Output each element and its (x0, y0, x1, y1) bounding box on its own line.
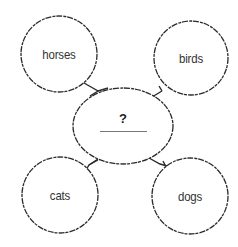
node-horses-label: horses (42, 47, 75, 62)
center-prompt: ? (119, 111, 127, 126)
center-ellipse (73, 88, 173, 164)
connector-cats-tick (89, 160, 98, 165)
node-cats-label: cats (50, 188, 70, 203)
answer-blank-line[interactable] (100, 131, 147, 132)
node-dogs-label: dogs (178, 189, 202, 204)
node-birds-label: birds (179, 51, 203, 66)
concept-web-diagram: horses birds cats dogs ? (0, 0, 238, 247)
connector-birds-tick (159, 86, 162, 91)
